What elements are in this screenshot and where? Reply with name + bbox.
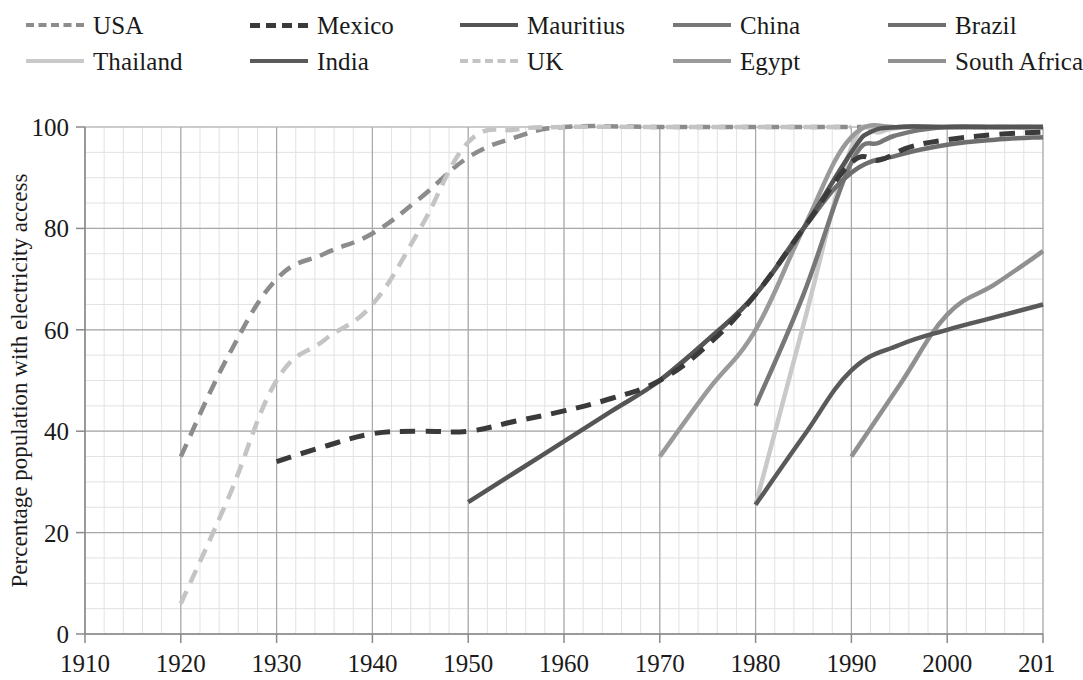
x-tick-label: 1970 <box>635 650 685 677</box>
data-series-group <box>181 125 1043 603</box>
legend-item-china[interactable]: China <box>673 8 800 42</box>
y-tick-label: 40 <box>44 418 69 445</box>
legend-swatch-icon <box>250 59 308 63</box>
x-tick-label: 1940 <box>347 650 397 677</box>
legend-item-label: China <box>740 13 800 38</box>
legend-row-1: USAMexicoMauritiusChinaBrazil <box>0 8 1054 42</box>
legend-swatch-icon <box>460 23 518 27</box>
legend-item-label: Mauritius <box>527 13 625 38</box>
y-tick-label: 60 <box>44 317 69 344</box>
y-axis-title: Percentage population with electricity a… <box>7 174 32 588</box>
legend-item-south-africa[interactable]: South Africa <box>888 44 1083 78</box>
legend-row-2: ThailandIndiaUKEgyptSouth Africa <box>0 44 1054 78</box>
legend-swatch-icon <box>26 23 84 27</box>
y-tick-labels: 020406080100 <box>32 114 70 648</box>
x-tick-label: 1910 <box>60 650 110 677</box>
legend-item-label: Mexico <box>317 13 394 38</box>
plot-area-wrapper: 020406080100 191019201930194019501960197… <box>0 88 1054 680</box>
legend-item-brazil[interactable]: Brazil <box>888 8 1017 42</box>
legend-item-label: South Africa <box>955 49 1083 74</box>
legend-item-label: Egypt <box>740 49 800 74</box>
legend-item-mexico[interactable]: Mexico <box>250 8 394 42</box>
legend-item-mauritius[interactable]: Mauritius <box>460 8 625 42</box>
plot-svg: 020406080100 191019201930194019501960197… <box>0 88 1054 680</box>
legend-item-usa[interactable]: USA <box>26 8 143 42</box>
legend-item-india[interactable]: India <box>250 44 369 78</box>
legend-swatch-icon <box>673 23 731 27</box>
x-tick-label: 1980 <box>731 650 781 677</box>
legend-item-label: India <box>317 49 369 74</box>
x-tick-label: 1950 <box>443 650 493 677</box>
y-axis-title-text: Percentage population with electricity a… <box>7 174 32 588</box>
legend-item-egypt[interactable]: Egypt <box>673 44 800 78</box>
legend-item-label: Thailand <box>93 49 183 74</box>
legend-item-label: Brazil <box>955 13 1017 38</box>
chart-legend: USAMexicoMauritiusChinaBrazil ThailandIn… <box>0 0 1054 88</box>
series-line-usa <box>181 126 1043 456</box>
legend-item-label: UK <box>527 49 563 74</box>
legend-swatch-icon <box>673 59 731 63</box>
x-tick-label: 1960 <box>539 650 589 677</box>
x-tick-label: 1990 <box>826 650 876 677</box>
y-tick-label: 100 <box>32 114 70 141</box>
legend-item-label: USA <box>93 13 143 38</box>
x-tick-labels: 1910192019301940195019601970198019902000… <box>60 650 1054 677</box>
y-tick-label: 80 <box>44 215 69 242</box>
x-tick-label: 1920 <box>156 650 206 677</box>
legend-swatch-icon <box>26 59 84 63</box>
legend-swatch-icon <box>250 23 308 28</box>
y-tick-label: 0 <box>57 621 70 648</box>
x-tick-label: 2000 <box>922 650 972 677</box>
y-tick-label: 20 <box>44 520 69 547</box>
legend-item-thailand[interactable]: Thailand <box>26 44 183 78</box>
legend-swatch-icon <box>888 23 946 27</box>
x-tick-label: 2010 <box>1018 650 1054 677</box>
series-line-china <box>756 127 1043 406</box>
legend-swatch-icon <box>888 59 946 63</box>
legend-item-uk[interactable]: UK <box>460 44 563 78</box>
legend-swatch-icon <box>460 59 518 63</box>
x-tick-label: 1930 <box>252 650 302 677</box>
